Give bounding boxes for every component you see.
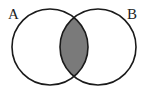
venn-diagram — [0, 0, 143, 93]
set-a-label: A — [8, 7, 19, 22]
set-b-label: B — [127, 7, 137, 22]
